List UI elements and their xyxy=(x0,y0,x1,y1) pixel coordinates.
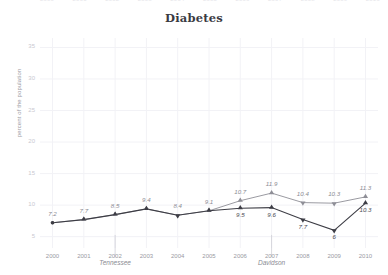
y-tick-label: 25 xyxy=(13,107,35,113)
y-tick-label: 10 xyxy=(13,201,35,207)
data-point-marker xyxy=(238,205,243,209)
y-tick-label: 30 xyxy=(13,75,35,81)
data-point-marker xyxy=(81,216,86,220)
data-value-label: 10.3 xyxy=(350,206,380,213)
y-tick-label: 35 xyxy=(13,43,35,49)
data-point-marker xyxy=(332,202,337,206)
data-value-label: 11.3 xyxy=(350,184,380,191)
y-tick-label: 20 xyxy=(13,138,35,144)
y-tick-label: 15 xyxy=(13,170,35,176)
data-point-marker xyxy=(175,214,180,218)
series-annotation-label: Tennessee xyxy=(85,259,145,266)
data-value-label: 6 xyxy=(319,233,349,240)
data-value-label: 10.7 xyxy=(225,188,255,195)
data-point-marker xyxy=(363,200,368,204)
data-value-label: 11.9 xyxy=(257,180,287,187)
data-point-marker xyxy=(238,198,243,202)
data-value-label: 9.6 xyxy=(257,211,287,218)
data-value-label: 9.4 xyxy=(131,196,161,203)
data-point-marker xyxy=(363,194,368,198)
data-value-label: 9.1 xyxy=(194,198,224,205)
data-value-label: 7.7 xyxy=(288,223,318,230)
data-value-label: 8.5 xyxy=(100,202,130,209)
data-point-marker xyxy=(269,190,274,194)
data-point-marker xyxy=(144,206,149,210)
data-value-label: 8.4 xyxy=(163,202,193,209)
chart-screenshot: 2000 2001 2002 2003 2004 2005 2006 2007 … xyxy=(0,0,388,275)
data-value-label: 10.3 xyxy=(319,190,349,197)
y-tick-label: 5 xyxy=(13,233,35,239)
data-point-marker xyxy=(113,211,118,215)
data-value-label: 9.5 xyxy=(225,211,255,218)
x-tick-label: 2010 xyxy=(345,253,385,259)
series-annotation-label: Davidson xyxy=(242,259,302,266)
gridlines xyxy=(40,38,378,248)
data-value-label: 7.2 xyxy=(38,210,68,217)
data-point-marker xyxy=(206,208,211,212)
data-value-label: 10.4 xyxy=(288,190,318,197)
data-point-marker xyxy=(51,221,55,225)
data-value-label: 7.7 xyxy=(69,207,99,214)
